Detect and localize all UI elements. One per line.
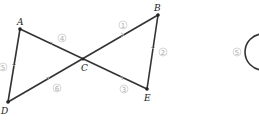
geometry-diagram: 1 2 3 4 5 6 A B C D E 5 — [0, 0, 259, 120]
point-c — [82, 58, 85, 61]
label-d: D — [0, 106, 8, 116]
marker-4: 4 — [58, 34, 66, 43]
segment-be — [147, 15, 158, 89]
svg-text:5: 5 — [1, 64, 5, 72]
point-b — [156, 13, 160, 17]
point-a — [18, 27, 22, 31]
partial-circle — [245, 34, 259, 70]
label-e: E — [143, 93, 151, 103]
svg-text:6: 6 — [55, 85, 60, 93]
svg-text:4: 4 — [60, 35, 65, 43]
marker-6: 6 — [53, 84, 61, 93]
svg-text:3: 3 — [122, 86, 126, 94]
svg-text:5: 5 — [235, 49, 239, 57]
label-b: B — [153, 3, 161, 13]
marker-3: 3 — [120, 85, 128, 94]
svg-text:1: 1 — [121, 22, 125, 30]
point-e — [145, 87, 149, 91]
marker-5: 5 — [0, 63, 7, 72]
point-d — [6, 100, 10, 104]
svg-text:2: 2 — [161, 49, 165, 57]
marker-1: 1 — [119, 21, 127, 30]
marker-2: 2 — [159, 48, 167, 57]
label-a: A — [16, 17, 24, 27]
label-c: C — [81, 63, 88, 73]
marker-5-circle: 5 — [233, 48, 241, 57]
